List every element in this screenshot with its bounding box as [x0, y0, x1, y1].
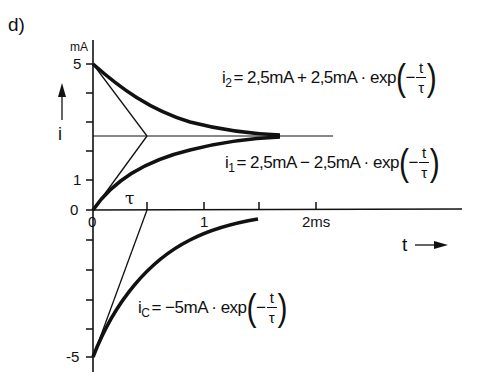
x-tick-2ms: 2ms — [302, 213, 330, 230]
equation-i2: i2 = 2,5mA + 2,5mA · exp (− tτ ) — [222, 60, 436, 95]
x-axis — [86, 209, 462, 210]
x-axis-label: t — [402, 234, 407, 256]
y-tick-5: 5 — [73, 55, 81, 72]
y-tick-neg5: -5 — [66, 348, 79, 365]
equation-ic: iC = −5mA · exp (− tτ ) — [138, 290, 287, 325]
y-arrow-icon — [58, 83, 66, 97]
x-tick-1: 1 — [200, 213, 208, 230]
equation-i1: i1 = 2,5mA − 2,5mA · exp (− tτ ) — [225, 145, 439, 180]
panel-label: d) — [8, 14, 25, 36]
y-tick-0: 0 — [70, 201, 78, 218]
y-axis-label: i — [58, 124, 62, 145]
x-tick-0: 0 — [88, 213, 96, 230]
tau-label: τ — [125, 188, 134, 208]
y-tick-1: 1 — [73, 171, 81, 188]
t-arrow-icon — [434, 241, 448, 249]
y-unit-label: mA — [70, 40, 88, 54]
